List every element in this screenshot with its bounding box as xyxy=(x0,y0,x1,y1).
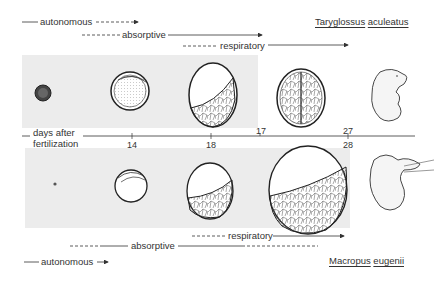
top-stage-paired-embryo xyxy=(277,69,325,127)
top-species-genus: Taryglossus xyxy=(315,16,365,27)
top-respiratory-line xyxy=(183,45,348,46)
top-stage-early-ovum xyxy=(35,85,51,101)
tick-17: 17 xyxy=(256,126,266,136)
bottom-species-name: Macropus eugenii xyxy=(329,255,404,266)
top-stage-vesicle xyxy=(111,72,149,110)
top-autonomous-label: autonomous xyxy=(40,17,92,27)
bottom-stage-vesicle xyxy=(115,170,147,202)
tick-14: 14 xyxy=(127,140,137,150)
top-species-epithet: aculeatus xyxy=(368,16,409,27)
top-stage-hatchling xyxy=(372,69,407,121)
top-species-name: Taryglossus aculeatus xyxy=(315,16,408,27)
axis-label-line1: days after xyxy=(33,128,75,138)
bottom-stage-yolk-sac xyxy=(187,163,233,219)
tick-18: 18 xyxy=(206,140,216,150)
top-respiratory-label: respiratory xyxy=(220,41,265,51)
bottom-species-genus: Macropus xyxy=(329,255,371,266)
bottom-stage-large-yolk-sac xyxy=(269,146,347,234)
bottom-stage-neonate xyxy=(370,155,434,210)
bottom-autonomous-label: autonomous xyxy=(41,257,93,267)
bottom-absorptive-label: absorptive xyxy=(131,241,175,251)
axis-label-line2: fertilization xyxy=(33,139,78,149)
tick-28: 28 xyxy=(343,140,353,150)
bottom-species-epithet: eugenii xyxy=(373,255,404,266)
tick-27: 27 xyxy=(343,126,353,136)
bottom-respiratory-label: respiratory xyxy=(228,231,273,241)
top-stage-yolk-sac xyxy=(189,63,237,127)
top-absorptive-label: absorptive xyxy=(122,30,166,40)
bottom-stage-early-ovum xyxy=(53,182,56,185)
time-axis xyxy=(22,133,415,139)
